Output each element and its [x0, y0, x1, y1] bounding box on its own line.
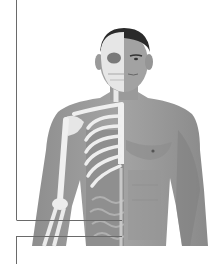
- head: [95, 28, 153, 92]
- anatomy-illustration: [0, 0, 224, 264]
- anatomy-figure: [0, 0, 224, 264]
